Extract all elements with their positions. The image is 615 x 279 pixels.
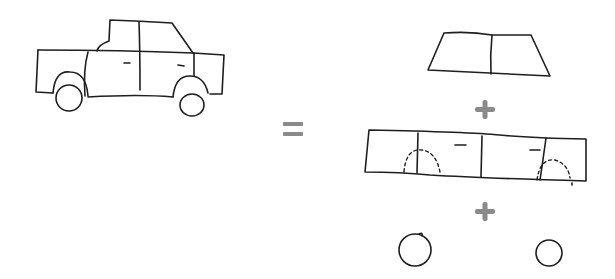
wheel-part <box>399 234 431 266</box>
body-part <box>365 130 586 185</box>
plus-sign <box>475 100 495 119</box>
equals-sign <box>283 122 303 136</box>
rear-wheel <box>180 94 204 116</box>
full-car-sketch <box>36 20 224 116</box>
front-wheel <box>56 85 82 111</box>
car-cabin <box>97 20 193 90</box>
cabin-part <box>428 32 550 76</box>
car-body <box>36 50 224 97</box>
wheel-part <box>536 240 562 266</box>
car-decomposition-diagram <box>0 0 615 279</box>
wheel-arch-dashed <box>404 150 440 172</box>
plus-sign <box>475 202 495 221</box>
